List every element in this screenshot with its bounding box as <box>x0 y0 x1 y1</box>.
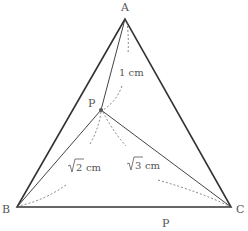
point-label-p: P <box>88 97 96 110</box>
bracket-pb-lower <box>19 185 66 206</box>
measurement-pa: 1 cm <box>119 67 144 78</box>
measurement-pb-radicand: 2 <box>76 162 82 173</box>
measurement-pb: 2 cm <box>68 159 102 173</box>
triangle-diagram: A B C P P 1 cm 2 cm 3 cm <box>0 0 248 231</box>
measurement-pc-radicand: 3 <box>135 160 141 171</box>
segment-pb <box>17 110 101 207</box>
bottom-label-p: P <box>162 217 170 230</box>
vertex-label-b: B <box>2 203 10 216</box>
measurement-pc: 3 cm <box>127 157 161 171</box>
bracket-pc-upper <box>103 112 126 146</box>
vertex-label-a: A <box>120 1 130 14</box>
segment-pc <box>101 110 231 207</box>
measurement-pb-unit: cm <box>86 162 102 173</box>
vertex-label-c: C <box>236 203 244 216</box>
triangle-abc <box>17 19 231 207</box>
point-p <box>99 108 103 112</box>
segment-pa <box>101 19 125 110</box>
measurement-pc-unit: cm <box>145 160 161 171</box>
bracket-pa-upper <box>127 22 128 54</box>
bracket-pa-lower <box>103 86 122 110</box>
